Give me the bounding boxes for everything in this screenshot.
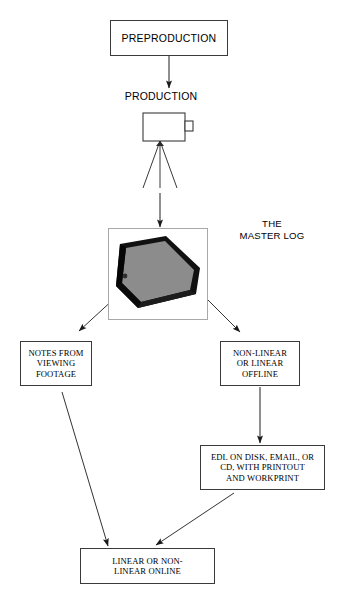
edge-edl-to-online — [156, 493, 234, 545]
node-master-log-label: THE MASTER LOG — [222, 218, 322, 243]
edge-notes-to-online — [62, 392, 108, 546]
video-camera-on-tripod-icon — [138, 110, 198, 192]
three-ring-binder-icon — [108, 228, 208, 320]
node-linear-or-non-linear-online[interactable]: LINEAR OR NON- LINEAR ONLINE — [80, 548, 215, 584]
node-preproduction[interactable]: PREPRODUCTION — [110, 20, 228, 56]
workflow-diagram: PREPRODUCTION PRODUCTION THE MASTER LOG … — [0, 0, 341, 611]
node-non-linear-or-linear-offline[interactable]: NON-LINEAR OR LINEAR OFFLINE — [220, 341, 300, 386]
node-notes-from-viewing-footage[interactable]: NOTES FROM VIEWING FOOTAGE — [20, 341, 92, 386]
node-production-label: PRODUCTION — [106, 90, 216, 104]
node-edl-on-disk[interactable]: EDL ON DISK, EMAIL, OR CD, WITH PRINTOUT… — [200, 445, 325, 490]
